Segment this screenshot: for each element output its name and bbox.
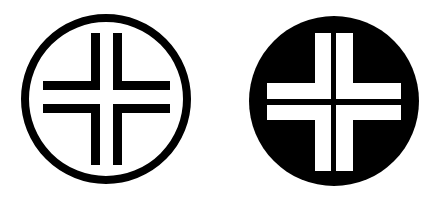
filled-cross-icon [249, 16, 419, 186]
outlined-cross-icon [25, 18, 187, 180]
icon-canvas: Outlined circle with four-bracket cross … [0, 0, 439, 198]
filled-circle [249, 16, 419, 186]
icons-svg [0, 0, 439, 198]
outline-circle [25, 18, 187, 180]
